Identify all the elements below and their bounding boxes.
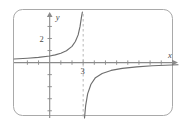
y-tick-label: 2: [39, 34, 43, 44]
x-axis-label: x: [167, 50, 172, 60]
graph-figure: 32xy: [0, 0, 185, 128]
y-axis-label: y: [55, 12, 60, 22]
x-tick-label: 3: [81, 66, 85, 76]
